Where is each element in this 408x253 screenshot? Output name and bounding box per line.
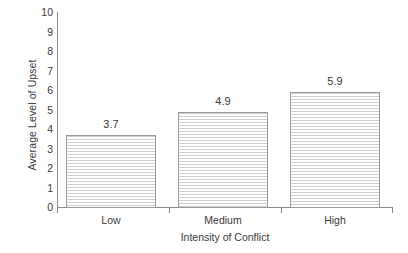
- y-tick-label-8: 8: [29, 46, 53, 57]
- bar-low: [66, 135, 156, 208]
- x-axis-tick-3: [392, 208, 393, 213]
- y-tick-label-6: 6: [29, 85, 53, 96]
- x-axis-tick-1: [169, 208, 170, 213]
- bar-value-medium: 4.9: [178, 96, 268, 107]
- x-axis-tick-0: [57, 208, 58, 213]
- bar-high: [290, 92, 380, 208]
- x-category-label-medium: Medium: [178, 214, 268, 226]
- x-axis-tick-2: [281, 208, 282, 213]
- x-category-label-low: Low: [66, 214, 156, 226]
- y-tick-label-10: 10: [29, 7, 53, 18]
- y-tick-label-3: 3: [29, 144, 53, 155]
- y-tick-label-4: 4: [29, 124, 53, 135]
- x-axis-title: Intensity of Conflict: [57, 231, 393, 243]
- x-category-label-high: High: [290, 214, 380, 226]
- bar-value-low: 3.7: [66, 119, 156, 130]
- bar-value-high: 5.9: [290, 76, 380, 87]
- y-tick-label-2: 2: [29, 163, 53, 174]
- y-axis-line: [57, 12, 58, 208]
- y-tick-label-5: 5: [29, 105, 53, 116]
- y-tick-label-1: 1: [29, 183, 53, 194]
- y-tick-label-7: 7: [29, 66, 53, 77]
- y-tick-label-0: 0: [29, 202, 53, 213]
- y-tick-label-9: 9: [29, 27, 53, 38]
- bar-chart: Average Level of Upset 10 9 8 7 6 5 4 3 …: [0, 0, 408, 253]
- bar-medium: [178, 112, 268, 208]
